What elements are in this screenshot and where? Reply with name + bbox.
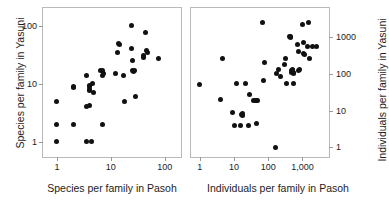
data-point: [101, 71, 106, 76]
plot-area-left: 110100110100: [43, 8, 181, 157]
x-tick-right-panel: [200, 157, 201, 161]
y-tick-label-right-panel: 1000: [336, 32, 356, 42]
x-axis-title-right: Individuals per family in Pasoh: [185, 182, 371, 194]
x-tick-label-left-panel: 100: [157, 162, 172, 172]
data-point: [254, 121, 259, 126]
data-point: [306, 20, 311, 25]
data-point: [261, 78, 266, 83]
data-point: [100, 122, 105, 127]
data-point: [234, 81, 239, 86]
y-tick-right-panel: [329, 147, 333, 148]
plot-area-right: 1101001,0001101001000: [191, 8, 329, 157]
x-tick-right-panel: [302, 157, 303, 161]
x-tick-label-left-panel: 10: [106, 162, 116, 172]
x-tick-left-panel: [165, 157, 166, 161]
data-point: [156, 56, 161, 61]
data-point: [262, 60, 267, 65]
data-point: [246, 123, 251, 128]
data-point: [247, 92, 252, 97]
y-tick-right-panel: [329, 74, 333, 75]
data-point: [273, 145, 278, 150]
data-point: [302, 52, 307, 57]
y-tick-label-left-panel: 1: [32, 137, 37, 147]
data-point: [141, 55, 146, 60]
data-point: [90, 81, 95, 86]
data-point: [297, 67, 302, 72]
y-tick-left-panel: [39, 26, 43, 27]
data-point: [307, 56, 312, 61]
x-tick-label-right-panel: 100: [261, 162, 276, 172]
x-tick-label-right-panel: 10: [229, 162, 239, 172]
data-point: [71, 85, 76, 90]
x-tick-left-panel: [57, 157, 58, 161]
data-point: [89, 139, 94, 144]
data-point: [260, 20, 265, 25]
x-tick-label-right-panel: 1,000: [291, 162, 314, 172]
data-point: [71, 122, 76, 127]
data-point: [115, 50, 120, 55]
y-tick-right-panel: [329, 111, 333, 112]
data-point: [197, 82, 202, 87]
data-point: [121, 73, 126, 78]
data-point: [145, 50, 150, 55]
data-point: [243, 81, 248, 86]
scatter-panel-left: 110100110100: [42, 7, 182, 158]
data-point: [282, 62, 287, 67]
x-tick-label-left-panel: 1: [54, 162, 59, 172]
data-point: [54, 122, 59, 127]
data-point: [314, 44, 319, 49]
data-point: [129, 23, 134, 28]
x-axis-title-left: Species per family in Pasoh: [26, 182, 198, 194]
y-tick-right-panel: [329, 37, 333, 38]
data-point: [278, 74, 283, 79]
x-tick-label-right-panel: 1: [197, 162, 202, 172]
data-point: [296, 49, 301, 54]
data-point: [133, 94, 138, 99]
y-axis-title-right: Individuals per family in Yasuni: [376, 5, 388, 175]
data-point: [284, 81, 289, 86]
y-tick-left-panel: [39, 84, 43, 85]
figure-container: 110100110100 Species per family in Pasoh…: [0, 0, 389, 210]
y-tick-label-right-panel: 10: [336, 106, 346, 116]
y-tick-label-right-panel: 1: [336, 142, 341, 152]
data-point: [122, 99, 127, 104]
data-point: [240, 111, 245, 116]
x-tick-right-panel: [234, 157, 235, 161]
data-point: [218, 97, 223, 102]
x-tick-left-panel: [111, 157, 112, 161]
data-point: [276, 67, 281, 72]
data-point: [84, 73, 89, 78]
data-point: [130, 58, 135, 63]
data-point: [232, 123, 237, 128]
data-point: [238, 123, 243, 128]
data-point: [87, 103, 92, 108]
data-point: [113, 71, 118, 76]
data-point: [54, 99, 59, 104]
data-point: [305, 44, 310, 49]
data-point: [54, 139, 59, 144]
data-point: [255, 98, 260, 103]
y-tick-label-left-panel: 10: [27, 79, 37, 89]
y-axis-title-left: Species per family in Yasuni: [14, 3, 26, 163]
y-tick-label-right-panel: 100: [336, 69, 351, 79]
data-point: [132, 68, 137, 73]
data-point: [288, 35, 293, 40]
data-point: [230, 110, 235, 115]
scatter-panel-right: 1101001,0001101001000: [190, 7, 330, 158]
x-tick-right-panel: [268, 157, 269, 161]
data-point: [295, 42, 300, 47]
data-point: [117, 42, 122, 47]
data-point: [220, 56, 225, 61]
data-point: [283, 56, 288, 61]
data-point: [300, 22, 305, 27]
y-tick-left-panel: [39, 142, 43, 143]
data-point: [143, 30, 148, 35]
data-point: [91, 90, 96, 95]
data-point: [291, 81, 296, 86]
data-point: [129, 46, 134, 51]
